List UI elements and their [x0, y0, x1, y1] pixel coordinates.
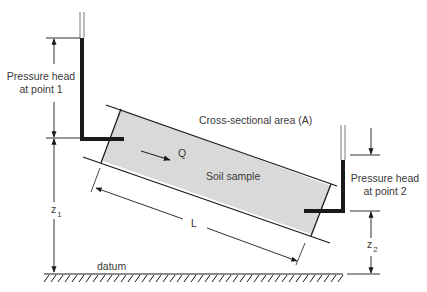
- darcy-flow-diagram: [0, 0, 427, 292]
- label-pressure-head-1: Pressure head at point 1: [4, 70, 78, 96]
- length-arrow-right: [207, 228, 297, 261]
- label-flow-q: Q: [178, 147, 186, 160]
- label-pressure-head-2: Pressure head at point 2: [348, 172, 422, 198]
- label-z2: z2: [367, 238, 378, 252]
- label-soil-sample: Soil sample: [206, 170, 260, 183]
- length-tick-right: [296, 243, 305, 265]
- length-arrow-left: [96, 188, 183, 219]
- label-length: L: [191, 217, 197, 230]
- label-cross-section: Cross-sectional area (A): [199, 114, 312, 127]
- label-z1: z1: [51, 203, 62, 217]
- label-datum: datum: [97, 260, 126, 273]
- length-tick-left: [91, 168, 100, 192]
- datum-ground: [44, 274, 343, 282]
